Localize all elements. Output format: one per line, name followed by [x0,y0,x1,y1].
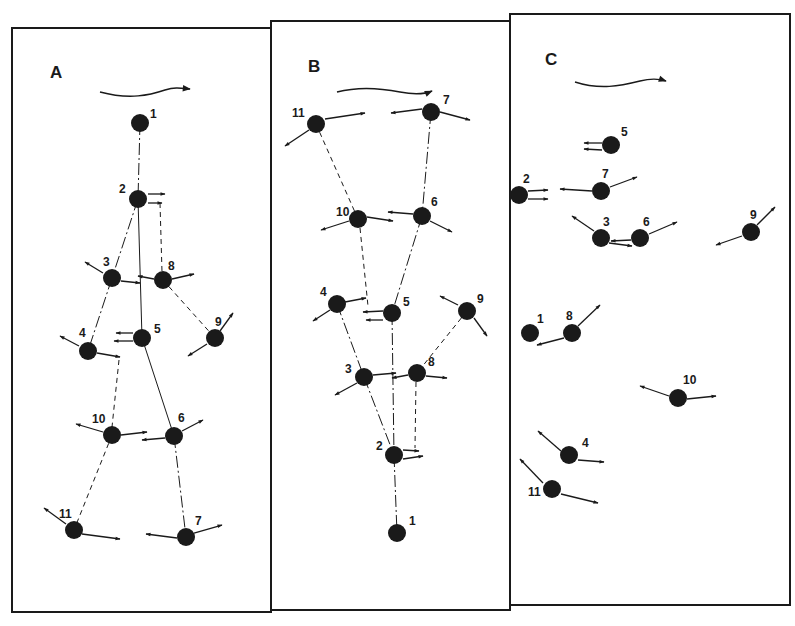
velocity-arrow-icon [430,221,452,232]
velocity-arrow-icon [325,113,365,119]
velocity-arrow-icon [520,459,543,483]
particle-dot-icon [592,182,610,200]
particle-11: 11 [528,480,561,499]
panel-label: C [545,50,557,69]
particle-number: 6 [431,195,438,209]
velocity-arrow-icon [321,221,349,230]
velocity-arrow-icon [142,438,165,440]
velocity-arrow-icon [610,177,637,187]
particle-dot-icon [510,186,528,204]
particle-number: 7 [443,93,450,107]
particle-number: 3 [603,215,610,229]
particle-dot-icon [521,324,539,342]
particle-dot-icon [328,295,346,313]
particle-number: 2 [523,172,530,186]
velocity-arrow-icon [146,534,177,538]
particle-dot-icon [103,426,121,444]
particle-number: 4 [582,436,589,450]
particle-11: 11 [292,106,325,133]
velocity-arrow-icon [560,189,592,191]
particle-dot-icon [413,207,431,225]
particle-10: 10 [336,205,367,228]
velocity-arrow-icon [220,313,233,331]
particle-number: 7 [195,514,202,528]
velocity-arrow-icon [121,432,147,435]
velocity-arrow-icon [313,310,330,321]
velocity-arrow-icon [426,376,447,378]
particle-number: 8 [566,309,573,323]
link-1-2 [138,123,140,199]
velocity-arrow-icon [345,298,366,302]
particle-dot-icon [742,223,760,241]
link-6-7 [174,436,186,537]
velocity-arrow-icon [403,450,419,451]
velocity-arrow-icon [363,311,383,312]
link-10-11 [74,435,112,530]
velocity-arrow-icon [649,222,677,234]
particle-number: 10 [683,373,697,387]
link-7-6 [422,112,431,216]
velocity-arrow-icon [172,274,194,279]
particle-dot-icon [206,329,224,347]
velocity-arrow-icon [335,383,357,395]
velocity-arrow-icon [188,344,207,356]
panel-label: B [308,57,320,76]
panel-c: C5273691810411 [510,14,790,605]
link-9-8 [417,311,467,373]
velocity-arrow-icon [528,190,548,191]
particle-number: 8 [428,355,435,369]
particle-number: 4 [79,326,86,340]
particle-dot-icon [349,210,367,228]
particle-dot-icon [560,446,578,464]
velocity-arrow-icon [285,130,309,146]
particle-dot-icon [383,304,401,322]
velocity-arrow-icon [640,386,669,396]
velocity-arrow-icon [440,296,458,305]
velocity-arrow-icon [82,534,120,539]
particle-11: 11 [59,507,83,539]
particle-8: 8 [408,355,435,382]
velocity-arrow-icon [440,112,470,120]
link-line [360,228,368,306]
link-8-9 [163,280,215,338]
particle-10: 10 [669,373,697,407]
panel-frame [510,14,790,605]
particle-dot-icon [563,324,581,342]
link-2-5 [138,199,142,338]
particle-number: 1 [537,312,544,326]
velocity-arrow-icon [537,338,564,345]
particle-number: 10 [92,412,106,426]
particle-9: 9 [206,315,224,347]
particle-dot-icon [602,136,620,154]
velocity-arrow-icon [561,494,598,503]
link-5-2 [392,313,394,455]
particle-number: 6 [178,411,185,425]
velocity-arrow-icon [391,109,422,113]
velocity-arrow-icon [578,460,604,462]
velocity-arrow-icon [388,212,413,214]
particle-number: 7 [602,167,609,181]
particle-number: 9 [215,315,222,329]
particle-dot-icon [133,329,151,347]
three-panel-particle-diagram: A1234567891011B1171064593821C52736918104… [0,0,795,626]
velocity-arrow-icon [716,236,742,245]
velocity-arrow-icon [60,336,79,346]
flow-direction-arrow-icon [100,88,190,96]
particle-3: 3 [592,215,610,247]
velocity-arrow-icon [392,375,408,378]
velocity-arrow-icon [474,318,487,336]
particle-9: 9 [458,292,484,320]
velocity-arrow-icon [578,305,600,326]
particle-dot-icon [385,446,403,464]
particle-number: 5 [621,125,628,139]
panel-label: A [50,63,62,82]
particle-number: 4 [320,285,327,299]
link-2-1 [394,455,397,533]
velocity-arrow-icon [611,240,631,241]
particle-number: 9 [477,292,484,306]
velocity-arrow-icon [609,243,632,246]
velocity-arrow-icon [403,456,423,459]
particle-2: 2 [119,182,147,208]
particle-number: 5 [154,322,161,336]
particle-4: 4 [560,436,589,464]
